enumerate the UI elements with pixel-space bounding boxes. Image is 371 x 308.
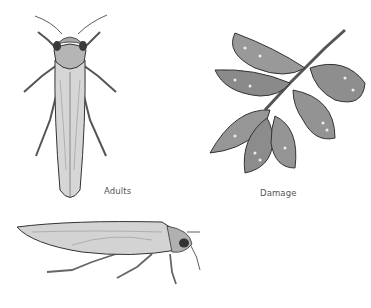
- leafhopper-dorsal-icon: [20, 10, 120, 200]
- adult-lateral-illustration: [12, 212, 207, 287]
- damaged-leaves-icon: [205, 28, 370, 178]
- caption-damage: Damage: [260, 188, 296, 198]
- leafhopper-lateral-icon: [12, 212, 207, 287]
- leaf-damage-illustration: [205, 28, 370, 178]
- adult-dorsal-illustration: [20, 10, 120, 200]
- caption-adults: Adults: [104, 186, 131, 196]
